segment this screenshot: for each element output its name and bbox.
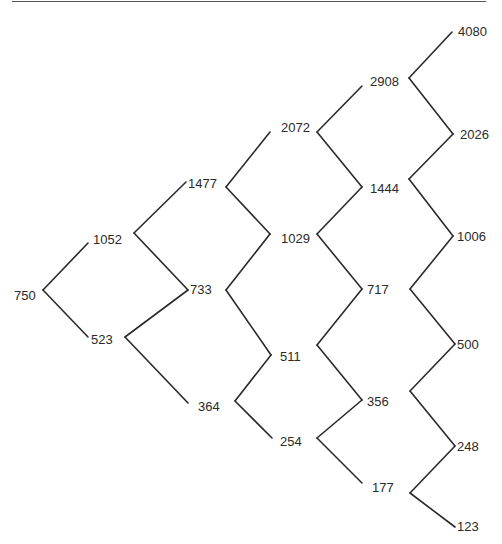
- node-value-label: 177: [372, 480, 394, 495]
- tree-edges: [43, 32, 455, 527]
- node-value-label: 2908: [370, 74, 399, 89]
- node-value-label: 1006: [457, 229, 486, 244]
- node-value-label: 2072: [281, 120, 310, 135]
- node-value-label: 500: [457, 337, 479, 352]
- tree-edge: [226, 132, 270, 187]
- tree-edge: [317, 187, 362, 234]
- tree-edge: [43, 290, 88, 337]
- node-value-label: 2026: [460, 127, 489, 142]
- tree-edge: [317, 345, 362, 400]
- tree-edge: [235, 401, 272, 438]
- tree-edge: [410, 344, 455, 391]
- node-value-label: 254: [280, 434, 302, 449]
- tree-edge: [410, 289, 455, 344]
- tree-edge: [125, 337, 188, 403]
- tree-edge: [317, 289, 362, 345]
- tree-edge: [409, 78, 453, 134]
- node-value-label: 1052: [93, 232, 122, 247]
- tree-edge: [317, 400, 362, 438]
- tree-edge: [134, 233, 188, 290]
- tree-edge: [317, 234, 362, 289]
- tree-edge: [235, 355, 271, 401]
- node-value-label: 356: [367, 394, 389, 409]
- tree-edge: [317, 438, 362, 483]
- tree-edge: [134, 182, 186, 233]
- node-value-label: 523: [91, 332, 113, 347]
- binomial-tree-diagram: 7501052523147773336420721029511254290814…: [0, 0, 502, 544]
- tree-edge: [317, 86, 362, 132]
- tree-edge: [410, 236, 453, 289]
- tree-edge: [409, 134, 453, 179]
- node-value-label: 4080: [458, 24, 487, 39]
- tree-edge: [226, 187, 270, 234]
- node-value-label: 733: [190, 282, 212, 297]
- tree-edge: [226, 234, 270, 290]
- tree-edge: [43, 243, 88, 290]
- node-value-label: 1444: [370, 181, 399, 196]
- tree-edge: [125, 290, 188, 337]
- tree-edge: [226, 290, 271, 355]
- node-value-label: 717: [367, 282, 389, 297]
- tree-edge: [409, 179, 453, 236]
- node-value-label: 1029: [281, 231, 310, 246]
- tree-edge: [410, 446, 455, 493]
- node-value-label: 248: [457, 439, 479, 454]
- tree-edge: [409, 32, 452, 78]
- node-value-label: 511: [280, 349, 301, 364]
- tree-edge: [410, 493, 455, 527]
- node-value-label: 750: [14, 288, 36, 303]
- tree-edge: [317, 132, 362, 187]
- tree-edge: [410, 391, 455, 446]
- node-value-label: 364: [198, 399, 220, 414]
- node-value-label: 123: [457, 519, 479, 534]
- node-value-label: 1477: [188, 176, 217, 191]
